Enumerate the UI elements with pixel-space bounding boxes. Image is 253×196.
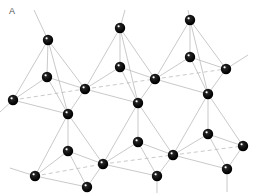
atom-highlight xyxy=(45,74,47,76)
bond-line xyxy=(48,40,85,89)
atom-highlight xyxy=(101,161,103,163)
bond-line xyxy=(155,20,190,79)
bond-line xyxy=(68,151,103,164)
bond-line xyxy=(35,151,68,176)
dashed-bond-line xyxy=(35,164,103,176)
bond-line xyxy=(85,89,138,103)
atom-ball xyxy=(98,159,108,169)
bond-line xyxy=(13,100,68,114)
atom-highlight xyxy=(83,86,85,88)
bond-line xyxy=(208,94,243,146)
atom-highlight xyxy=(66,111,68,113)
atom-ball xyxy=(221,64,231,74)
atom-ball xyxy=(63,109,73,119)
bond-line xyxy=(120,28,155,79)
dashed-bond-line xyxy=(155,69,226,79)
bond-line xyxy=(190,20,226,69)
atom-ball xyxy=(80,84,90,94)
atom-ball xyxy=(30,171,40,181)
atom-highlight xyxy=(153,76,155,78)
bond-line xyxy=(155,79,208,94)
atom-ball xyxy=(238,141,248,151)
atom-ball xyxy=(185,15,195,25)
atom-highlight xyxy=(11,97,13,99)
atom-ball xyxy=(115,23,125,33)
bond-line xyxy=(173,94,208,155)
dashed-bond-line xyxy=(85,79,155,89)
bond-line xyxy=(138,142,173,155)
atom-highlight xyxy=(66,148,68,150)
atom-highlight xyxy=(225,166,227,168)
atom-highlight xyxy=(155,173,157,175)
bond-line xyxy=(35,176,87,187)
atom-ball xyxy=(222,164,232,174)
atom-highlight xyxy=(136,139,138,141)
atom-ball xyxy=(63,146,73,156)
bond-line xyxy=(85,28,120,89)
dashed-bond-line xyxy=(13,89,85,100)
bond-line xyxy=(173,134,208,155)
atom-ball xyxy=(82,182,92,192)
atom-ball xyxy=(150,74,160,84)
dashed-bond-line xyxy=(103,155,173,164)
bond-line xyxy=(68,151,87,187)
atom-highlight xyxy=(206,131,208,133)
atom-ball xyxy=(8,95,18,105)
atom-ball xyxy=(42,72,52,82)
atom-ball xyxy=(133,137,143,147)
bond-line xyxy=(13,40,48,100)
crystal-lattice-diagram xyxy=(0,0,253,196)
atom-ball xyxy=(133,98,143,108)
atom-highlight xyxy=(171,152,173,154)
atom-highlight xyxy=(136,100,138,102)
bond-line xyxy=(68,114,103,164)
atom-ball xyxy=(168,150,178,160)
atom-ball xyxy=(115,62,125,72)
atom-highlight xyxy=(188,54,190,56)
atom-ball xyxy=(185,52,195,62)
atom-highlight xyxy=(224,66,226,68)
bond-line xyxy=(13,77,47,100)
bond-line xyxy=(155,57,190,79)
atom-highlight xyxy=(118,64,120,66)
bond-line xyxy=(103,103,138,164)
bond-line xyxy=(103,142,138,164)
dashed-bond-line xyxy=(173,146,243,155)
atom-highlight xyxy=(33,173,35,175)
atom-highlight xyxy=(85,184,87,186)
atom-highlight xyxy=(118,25,120,27)
atom-ball xyxy=(203,89,213,99)
bond-line xyxy=(103,164,157,176)
atom-highlight xyxy=(206,91,208,93)
atom-ball xyxy=(43,35,53,45)
bond-line xyxy=(35,114,68,176)
bond-line xyxy=(190,57,208,94)
atom-ball xyxy=(152,171,162,181)
bond-line xyxy=(47,40,48,77)
atom-highlight xyxy=(188,17,190,19)
bond-line xyxy=(85,67,120,89)
bond-line xyxy=(138,103,173,155)
atom-highlight xyxy=(46,37,48,39)
atom-ball xyxy=(203,129,213,139)
bond-line xyxy=(173,155,227,169)
atom-highlight xyxy=(241,143,243,145)
